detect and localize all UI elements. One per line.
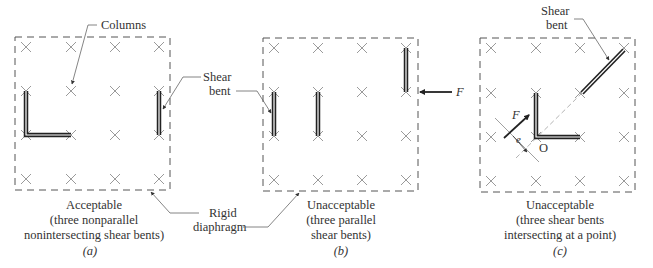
eccentricity-label: e	[516, 133, 521, 145]
force-label-b: F	[455, 85, 464, 99]
shear-bent-l-a	[26, 91, 71, 135]
shear-bent-leader-a	[163, 77, 201, 109]
rigid-diaphragm-label-line1: Rigid	[209, 206, 238, 220]
panel-b: F Unacceptable (three parallel shear ben…	[263, 38, 464, 258]
panel-c: F e O Shear bent Unacceptable (three she…	[480, 4, 635, 258]
shear-bent-l-c	[536, 93, 580, 137]
shear-bent-diagram: Columns Shear bent Acceptable (three non…	[0, 0, 653, 268]
caption-c-line2: (three shear bents	[516, 213, 604, 227]
shear-bent-leader-c	[574, 19, 609, 60]
caption-b-line3: shear bents)	[311, 228, 371, 242]
rigid-diaphragm-outline-a	[15, 37, 170, 190]
column-grid-b	[269, 43, 411, 185]
column-grid-a	[21, 42, 164, 184]
panel-tag-c: (c)	[553, 244, 567, 258]
rigid-diaphragm-label-line2: diaphragm	[193, 220, 247, 234]
shear-bent-leader-b	[236, 91, 271, 113]
rigid-diaphragm-outline-b	[263, 38, 418, 191]
caption-a-line2: (three nonparallel	[50, 213, 139, 227]
shear-bent-label-a-line2: bent	[209, 84, 231, 98]
columns-leader	[72, 25, 97, 84]
shear-bent-label-c-line2: bent	[546, 18, 568, 32]
panel-tag-a: (a)	[83, 244, 98, 258]
shear-bent-label-a-line1: Shear	[203, 70, 232, 84]
line-of-action-c	[516, 93, 582, 158]
caption-c-line3: intersecting at a point)	[504, 228, 616, 242]
caption-a-line1: Acceptable	[66, 198, 123, 212]
caption-b-line1: Unacceptable	[307, 198, 375, 212]
shear-bent-diagonal-c	[582, 50, 624, 93]
panel-tag-b: (b)	[334, 244, 349, 258]
caption-a-line3: nonintersecting shear bents)	[24, 228, 164, 242]
rigid-leader-a	[151, 192, 199, 213]
origin-label: O	[539, 141, 548, 155]
shear-bent-label-c-line1: Shear	[541, 4, 570, 18]
rigid-leader-b	[243, 193, 299, 227]
caption-b-line2: (three parallel	[306, 213, 376, 227]
force-label-c: F	[511, 108, 520, 122]
caption-c-line1: Unacceptable	[526, 198, 594, 212]
columns-label: Columns	[101, 18, 146, 32]
